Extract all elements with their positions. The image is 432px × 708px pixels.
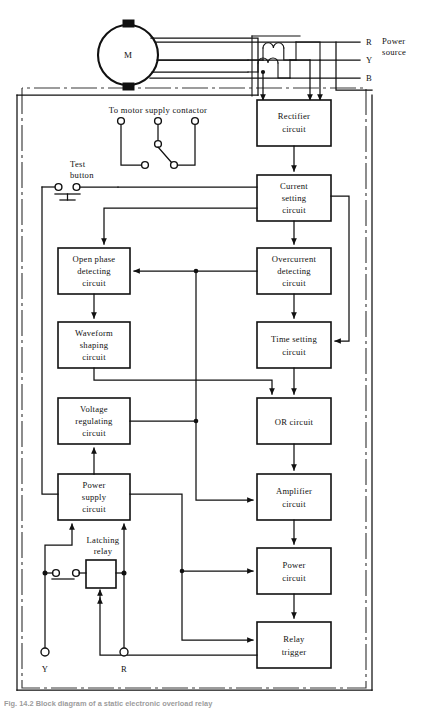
label-current-setting-1: Current [280,181,308,191]
label-open-phase-2: detecting [77,266,111,276]
power-source-label-line1: Power [382,36,405,46]
label-power-circuit-2: circuit [282,573,306,583]
label-current-setting-3: circuit [282,205,306,215]
test-button-label-line1: Test [70,159,86,169]
label-open-phase-3: circuit [82,278,106,288]
motor-leads [151,38,258,95]
label-amplifier-2: circuit [282,499,306,509]
label-waveform-1: Waveform [75,328,113,338]
label-rectifier-1: Rectifier [278,111,310,121]
figure-caption: Fig. 14.2 Block diagram of a static elec… [4,699,424,708]
label-overcurrent-2: detecting [277,266,311,276]
label-waveform-3: circuit [82,352,106,362]
block-time-setting [257,322,331,368]
label-power-supply-2: supply [82,492,107,502]
phase-label-R: R [366,37,372,47]
test-button[interactable] [42,184,118,200]
terminal-R-label: R [121,664,127,674]
label-open-phase-1: Open phase [73,254,116,264]
svg-text:M: M [124,50,132,60]
latching-relay-label-line2: relay [94,546,113,556]
motor-supply-contactor-switch[interactable] [118,118,199,169]
label-overcurrent-3: circuit [282,278,306,288]
label-current-setting-2: setting [282,193,307,203]
block-power-circuit [257,548,331,594]
contactor-label: To motor supply contactor [109,105,207,115]
terminal-R[interactable] [120,648,128,656]
label-relay-trigger-1: Relay [283,634,305,644]
label-voltage-reg-2: regulating [75,416,113,426]
latching-relay[interactable] [86,560,116,598]
block-relay-trigger [257,622,331,668]
label-rectifier-2: circuit [282,124,306,134]
latching-relay-label-line1: Latching [87,535,120,545]
test-button-label-line2: button [70,170,94,180]
terminal-Y[interactable] [41,648,49,656]
block-rectifier [257,100,331,146]
phase-label-B: B [366,73,372,83]
block-amplifier [257,474,331,520]
label-relay-trigger-2: trigger [282,647,307,657]
label-or-circuit: OR circuit [275,417,314,427]
block-diagram: M [0,0,432,708]
current-transformer-lower [248,58,290,78]
label-voltage-reg-1: Voltage [80,404,108,414]
label-power-supply-3: circuit [82,504,106,514]
label-time-setting-2: circuit [282,347,306,357]
latching-relay-contacts[interactable] [43,570,87,579]
terminal-Y-label: Y [42,664,49,674]
phase-labels: R Y B Power source [366,36,406,83]
power-source-label-line2: source [382,47,406,57]
phase-label-Y: Y [366,55,373,65]
label-amplifier-1: Amplifier [276,486,312,496]
label-time-setting-1: Time setting [271,334,317,344]
label-power-circuit-1: Power [282,560,305,570]
figure-canvas: M [0,0,432,708]
label-overcurrent-1: Overcurrent [272,254,317,264]
label-power-supply-1: Power [82,480,105,490]
current-transformer-upper [248,36,300,96]
label-voltage-reg-3: circuit [82,428,106,438]
motor-symbol: M [98,20,158,90]
label-waveform-2: shaping [80,340,109,350]
